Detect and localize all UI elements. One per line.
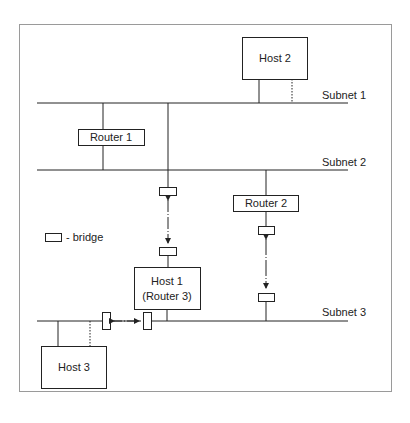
bridge-icon (259, 227, 275, 235)
subnet-2: Subnet 2 (37, 156, 366, 170)
subnet3-bridge-link (36, 313, 152, 330)
host-2-label: Host 2 (259, 52, 291, 64)
bridge-icon (160, 248, 177, 256)
subnet-1-label: Subnet 1 (322, 89, 366, 101)
router-1: Router 1 (79, 103, 145, 170)
bridge-icon (144, 313, 152, 330)
diagram-frame (20, 25, 392, 392)
router-2-label: Router 2 (245, 197, 287, 209)
bridge-icon (103, 313, 111, 330)
host-2: Host 2 (243, 38, 308, 104)
host-3-label: Host 3 (58, 361, 90, 373)
bridge-icon (160, 188, 177, 196)
host-1-label: Host 1 (151, 275, 183, 287)
subnet-2-label: Subnet 2 (322, 156, 366, 168)
network-diagram: Subnet 1 Subnet 2 Subnet 3 Host 2 Router… (0, 0, 410, 423)
router-2: Router 2 (234, 170, 299, 321)
router-1-label: Router 1 (90, 131, 132, 143)
subnet1-host1-bridge-link (160, 103, 177, 267)
host-1-sublabel: (Router 3) (142, 290, 192, 302)
legend: - bridge (46, 231, 104, 243)
host-3: Host 3 (42, 321, 107, 389)
bridge-legend-icon (46, 234, 62, 242)
subnet-1: Subnet 1 (37, 89, 366, 103)
bridge-icon (259, 294, 275, 302)
bridge-legend-label: - bridge (66, 231, 103, 243)
subnet-3-label: Subnet 3 (322, 306, 366, 318)
